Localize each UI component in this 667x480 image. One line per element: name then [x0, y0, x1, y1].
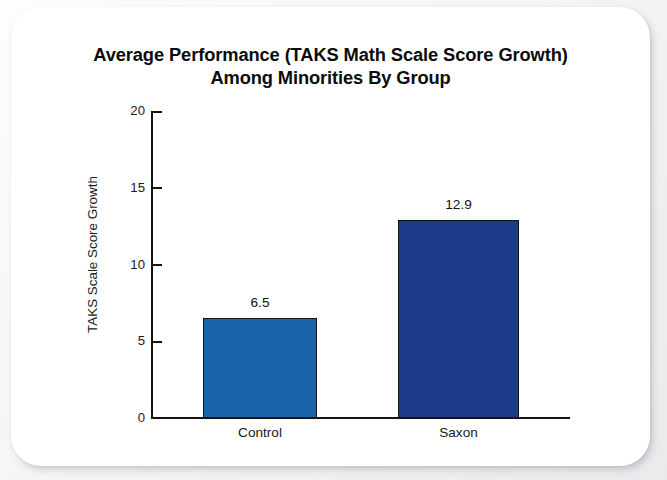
bar-saxon[interactable]: [398, 220, 519, 418]
page-background: Average Performance (TAKS Math Scale Sco…: [0, 0, 667, 480]
chart-card: Average Performance (TAKS Math Scale Sco…: [11, 7, 650, 466]
x-tick-label-control: Control: [193, 425, 327, 440]
y-axis-title: TAKS Scale Score Growth: [85, 150, 100, 360]
y-tick-label-5: 5: [111, 333, 145, 348]
y-tick-15: [153, 187, 162, 189]
x-tick-label-saxon: Saxon: [388, 425, 529, 440]
y-tick-0: [153, 417, 162, 419]
y-tick-10: [153, 264, 162, 266]
y-tick-20: [153, 111, 162, 113]
y-tick-label-15: 15: [111, 180, 145, 195]
y-tick-5: [153, 341, 162, 343]
y-tick-label-10: 10: [111, 257, 145, 272]
bar-value-saxon: 12.9: [398, 197, 519, 212]
bar-control[interactable]: [203, 318, 317, 418]
plot-area: 20 15 10 5 0 TAKS Scale Score Growth 6.5…: [11, 7, 650, 466]
bar-value-control: 6.5: [203, 295, 317, 310]
y-tick-label-20: 20: [111, 103, 145, 118]
y-tick-label-0: 0: [111, 410, 145, 425]
